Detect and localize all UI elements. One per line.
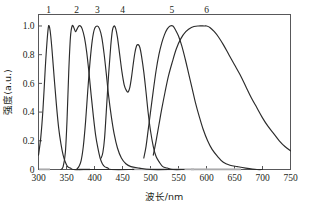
spectrum-curve-4 xyxy=(101,26,184,170)
y-tick-label: 0 xyxy=(30,165,35,175)
spectra-chart: 300350400450500550600650700750 00.20.40.… xyxy=(0,0,309,207)
curve-group xyxy=(39,25,291,169)
x-tick-label: 400 xyxy=(87,173,102,183)
curve-label-3: 3 xyxy=(95,5,100,15)
y-axis-tick-labels: 00.20.40.60.81.0 xyxy=(23,21,35,175)
x-axis-title: 波长/nm xyxy=(145,191,183,202)
x-tick-label: 650 xyxy=(227,173,242,183)
x-tick-label: 600 xyxy=(199,173,214,183)
y-axis-title: 强度(a.u.) xyxy=(2,69,13,114)
curve-label-2: 2 xyxy=(74,5,79,15)
y-tick-label: 0.8 xyxy=(23,50,35,60)
x-tick-label: 500 xyxy=(143,173,158,183)
x-axis-tick-labels: 300350400450500550600650700750 xyxy=(31,173,298,183)
curve-label-1: 1 xyxy=(46,5,51,15)
spectrum-curve-5 xyxy=(144,26,263,170)
chart-figure: 300350400450500550600650700750 00.20.40.… xyxy=(0,0,309,207)
curve-number-labels: 123456 xyxy=(46,5,209,15)
x-tick-label: 350 xyxy=(59,173,74,183)
y-tick-label: 0.4 xyxy=(23,107,35,117)
spectrum-curve-2 xyxy=(61,25,134,169)
x-tick-label: 450 xyxy=(115,173,130,183)
y-tick-label: 0.2 xyxy=(23,136,35,146)
curve-label-4: 4 xyxy=(120,5,125,15)
spectrum-curve-6 xyxy=(153,26,290,155)
y-tick-label: 0.6 xyxy=(23,79,35,89)
curve-label-5: 5 xyxy=(169,5,174,15)
y-tick-label: 1.0 xyxy=(23,21,35,31)
x-tick-label: 700 xyxy=(255,173,270,183)
x-tick-label: 750 xyxy=(283,173,298,183)
x-tick-label: 550 xyxy=(171,173,186,183)
curve-label-6: 6 xyxy=(204,5,209,15)
